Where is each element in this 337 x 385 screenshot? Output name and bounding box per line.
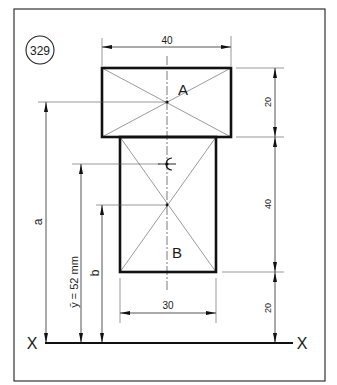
rectangle-b: B [120,137,216,272]
dimension-b: b [88,205,167,343]
dimension-right-bottom-value: 20 [263,303,273,313]
composite-section-drawing: 329 A B 40 30 [0,0,337,385]
dimension-top-width-value: 40 [161,35,173,46]
dimension-right-middle-value: 40 [263,199,273,209]
drawing-frame [14,9,325,381]
dimension-b-label: b [88,269,102,276]
axis-label-left: X [27,335,38,352]
dimension-bottom-width: 30 [120,278,216,323]
dimension-a-label: a [31,218,45,225]
reference-axis-xx: X X [27,335,308,352]
axis-label-right: X [297,335,308,352]
dimension-ybar-label: ȳ = 52 mm [68,256,80,308]
dimension-bottom-width-value: 30 [162,300,174,311]
dimension-right-top-value: 20 [263,97,273,107]
centroid-symbol-icon [158,158,176,170]
figure-number-badge: 329 [26,36,54,64]
rectangle-a: A [102,68,231,137]
dimension-top-width: 40 [102,35,231,66]
rectangle-b-label: B [172,244,182,261]
dimension-ybar: ȳ = 52 mm [68,164,160,343]
figure-number: 329 [30,44,50,58]
rectangle-a-label: A [178,81,188,98]
